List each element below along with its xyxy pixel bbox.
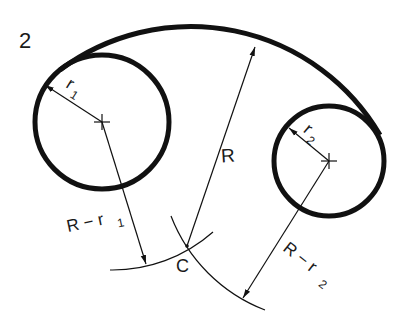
construction-arc-R-minus-r1 [110, 232, 213, 270]
point-C [185, 244, 189, 248]
dimension-R-minus-r1 [102, 122, 146, 264]
svg-text:R − r: R − r [65, 209, 106, 235]
label-R: R [220, 145, 235, 167]
svg-text:1: 1 [116, 215, 126, 230]
dimension-R-minus-r2 [243, 161, 329, 298]
label-r2: r 2 [297, 120, 325, 149]
label-R-minus-r1: R − r 1 [65, 205, 126, 240]
label-R-minus-r2: R − r 2 [276, 238, 336, 292]
svg-text:R − r: R − r [280, 238, 321, 276]
label-r1: r 1 [60, 74, 86, 103]
tangent-arc-R [60, 27, 380, 135]
tangent-arc-diagram: r 1 r 2 R R − r 1 R − r 2 C [0, 0, 404, 325]
label-C: C [176, 256, 189, 276]
svg-text:2: 2 [316, 277, 330, 292]
